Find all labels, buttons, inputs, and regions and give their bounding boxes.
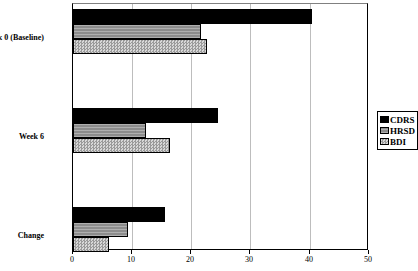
legend-swatch-icon-bdi bbox=[380, 138, 389, 145]
legend-swatch-icon-hrsd bbox=[380, 127, 389, 134]
legend-label-cdrs: CDRS bbox=[390, 115, 415, 125]
bar-hrsd-week-6 bbox=[73, 123, 146, 138]
legend-item-bdi: BDI bbox=[380, 136, 415, 147]
chart-legend: CDRS HRSD BDI bbox=[377, 111, 418, 150]
bar-cdrs-week-0 bbox=[73, 9, 312, 24]
xtick-label-0: 0 bbox=[60, 255, 84, 264]
bar-cdrs-change bbox=[73, 207, 165, 222]
xtick-mark-10 bbox=[131, 250, 132, 254]
category-label-week-6: Week 6 bbox=[19, 132, 44, 142]
xtick-mark-40 bbox=[309, 250, 310, 254]
legend-label-bdi: BDI bbox=[390, 137, 406, 147]
xtick-label-10: 10 bbox=[119, 255, 143, 264]
gridline-40 bbox=[310, 4, 311, 249]
gridline-30 bbox=[250, 4, 251, 249]
xtick-mark-0 bbox=[72, 250, 73, 254]
xtick-label-20: 20 bbox=[178, 255, 202, 264]
legend-label-hrsd: HRSD bbox=[390, 126, 415, 136]
bar-bdi-change bbox=[73, 237, 109, 252]
bar-bdi-week-6 bbox=[73, 138, 170, 153]
bar-chart: Week 0 (Baseline) Week 6 Change 0 10 20 … bbox=[0, 0, 418, 271]
xtick-mark-20 bbox=[190, 250, 191, 254]
bar-bdi-week-0 bbox=[73, 39, 207, 54]
legend-item-hrsd: HRSD bbox=[380, 125, 415, 136]
plot-area bbox=[72, 3, 368, 250]
xtick-label-50: 50 bbox=[356, 255, 380, 264]
legend-swatch-icon-cdrs bbox=[380, 116, 389, 123]
legend-item-cdrs: CDRS bbox=[380, 114, 415, 125]
category-label-week-0: Week 0 (Baseline) bbox=[0, 33, 44, 43]
bar-cdrs-week-6 bbox=[73, 108, 218, 123]
xtick-mark-30 bbox=[249, 250, 250, 254]
category-label-change: Change bbox=[18, 231, 44, 241]
bar-hrsd-change bbox=[73, 222, 128, 237]
xtick-mark-50 bbox=[368, 250, 369, 254]
xtick-label-40: 40 bbox=[297, 255, 321, 264]
xtick-label-30: 30 bbox=[237, 255, 261, 264]
bar-hrsd-week-0 bbox=[73, 24, 201, 39]
